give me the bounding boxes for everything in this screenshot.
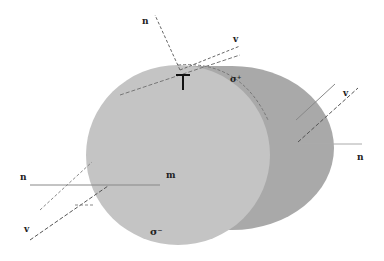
label-n-left: n — [20, 172, 27, 182]
label-v-right: v — [342, 88, 349, 98]
diagram-canvas: n v σ⁺ n v m σ⁻ v n — [0, 0, 384, 261]
line-left-1 — [40, 162, 92, 210]
label-sigma-bottom: σ⁻ — [150, 226, 163, 237]
label-v-left: v — [23, 224, 30, 234]
label-n-top: n — [142, 16, 149, 26]
label-v-top: v — [232, 34, 239, 44]
cylinder-front-face — [86, 65, 270, 245]
label-n-right: n — [357, 152, 364, 162]
cylinder-diagram: n v σ⁺ n v m σ⁻ v n — [0, 0, 384, 261]
label-sigma-top: σ⁺ — [230, 74, 242, 84]
v-vector-left — [30, 186, 108, 240]
normal-vector-top — [155, 15, 180, 70]
label-center: m — [166, 170, 176, 180]
